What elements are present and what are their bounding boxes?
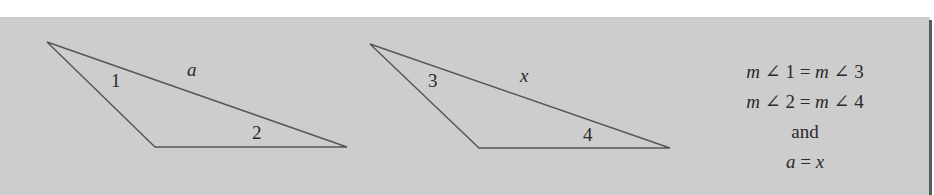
angle-symbol: ∠ — [765, 61, 781, 82]
angle-2-label: 2 — [252, 122, 262, 143]
measure-m: m — [746, 91, 760, 112]
angle-symbol: ∠ — [834, 91, 850, 112]
angle-number: 3 — [854, 61, 864, 82]
measure-m: m — [815, 91, 829, 112]
equals-sign: = — [800, 61, 811, 82]
side-a: a — [786, 151, 796, 172]
side-x: x — [816, 151, 824, 172]
measure-m: m — [815, 61, 829, 82]
statement-line-and: and — [700, 117, 910, 147]
angle-symbol: ∠ — [765, 91, 781, 112]
statement-line-angle-2-4: m ∠ 2 = m ∠ 4 — [700, 87, 910, 117]
triangle-1 — [47, 42, 347, 147]
angle-1-label: 1 — [111, 70, 121, 91]
side-x-label: x — [519, 65, 529, 86]
equals-sign: = — [800, 151, 811, 172]
angle-3-label: 3 — [428, 70, 438, 91]
angle-4-label: 4 — [583, 124, 593, 145]
side-a-label: a — [187, 59, 197, 80]
statement-line-sides: a = x — [700, 147, 910, 177]
triangle-2 — [370, 44, 670, 148]
equals-sign: = — [800, 91, 811, 112]
angle-number: 1 — [785, 61, 795, 82]
measure-m: m — [746, 61, 760, 82]
statement-line-angle-1-3: m ∠ 1 = m ∠ 3 — [700, 57, 910, 87]
angle-number: 2 — [785, 91, 795, 112]
angle-symbol: ∠ — [834, 61, 850, 82]
congruence-statement: m ∠ 1 = m ∠ 3 m ∠ 2 = m ∠ 4 and a = x — [700, 57, 910, 177]
angle-number: 4 — [854, 91, 864, 112]
